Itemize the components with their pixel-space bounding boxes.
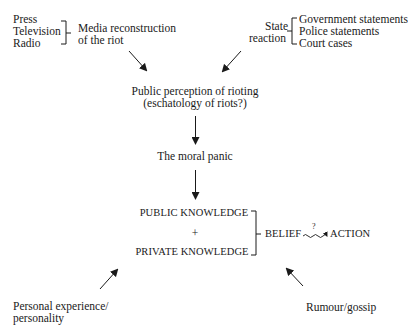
personal-experience-label-line2: personality [13,312,64,324]
personal-experience-label: Personal experience/ [13,300,108,312]
belief-label: BELIEF [265,228,301,240]
state-item-police: Police statements [299,25,379,37]
media-reconstruction-label: Media reconstruction [78,22,176,34]
media-to-perception-arrow [129,51,146,70]
state-item-government: Government statements [299,13,408,25]
action-label: ACTION [330,228,370,240]
private-knowledge-label: PRIVATE KNOWLEDGE [135,246,248,258]
state-reaction-label: State [265,20,288,32]
public-knowledge-label: PUBLIC KNOWLEDGE [140,207,249,219]
media-reconstruction-label-line2: of the riot [78,34,123,46]
public-perception-subtitle: (eschatology of riots?) [143,97,246,109]
media-source-television: Television [13,25,61,37]
moral-panic-label: The moral panic [157,150,232,162]
rumour-gossip-label: Rumour/gossip [306,301,376,313]
personal-to-knowledge-arrow [100,270,117,289]
public-perception-label: Public perception of rioting [132,85,259,97]
state-reaction-bracket [287,18,297,44]
media-source-radio: Radio [13,37,40,49]
uncertain-link-question-mark: ? [312,221,316,233]
plus-sign: + [192,227,199,239]
media-source-press: Press [13,13,37,25]
knowledge-bracket [251,211,261,255]
state-to-perception-arrow [223,51,241,71]
media-sources-bracket [61,21,71,44]
rumour-to-knowledge-arrow [287,269,303,286]
state-item-court: Court cases [299,37,352,49]
belief-action-wavy-arrow [303,235,327,238]
state-reaction-label-line2: reaction [249,32,286,44]
